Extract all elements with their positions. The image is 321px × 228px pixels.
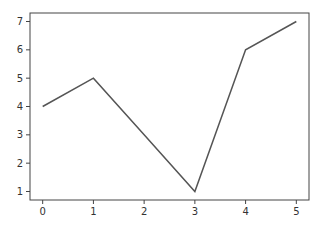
x-tick-label: 4 [242,206,248,217]
x-tick-label: 1 [90,206,96,217]
y-tick-label: 5 [17,73,23,84]
x-axis: 012345 [39,200,299,217]
y-tick-label: 1 [17,186,23,197]
x-tick-label: 0 [39,206,45,217]
y-tick-label: 7 [17,16,23,27]
y-tick-label: 2 [17,158,23,169]
plot-area [30,13,309,200]
line-chart: 012345 1234567 [0,0,321,228]
x-tick-label: 3 [192,206,198,217]
x-tick-label: 5 [293,206,299,217]
y-axis: 1234567 [17,16,30,197]
y-tick-label: 6 [17,44,23,55]
y-tick-label: 3 [17,129,23,140]
y-tick-label: 4 [17,101,23,112]
x-tick-label: 2 [141,206,147,217]
